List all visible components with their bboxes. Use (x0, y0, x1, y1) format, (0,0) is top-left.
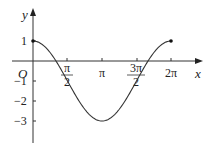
x-tick-label-2pi: 2π (165, 66, 177, 80)
x-tick-label-pi-over-2-num: π (64, 61, 70, 75)
y-tick-label: −3 (14, 114, 27, 128)
x-tick-label-pi: π (99, 66, 105, 80)
y-axis-label: y (20, 7, 28, 22)
cosine-curve (33, 41, 171, 121)
y-tick-label: 1 (21, 34, 27, 48)
x-tick-label-3pi-over-2-num: 3π (130, 61, 142, 75)
x-ticks: π 2 π 3π 2 2π (61, 58, 177, 89)
y-tick-label: −1 (14, 74, 27, 88)
function-graph: y x O 1 −1 −2 −3 π 2 π 3π 2 2π (0, 0, 213, 153)
x-axis-label: x (194, 66, 201, 81)
x-axis-arrow-icon (195, 58, 203, 64)
end-point (169, 39, 173, 43)
y-axis-arrow-icon (30, 8, 36, 16)
start-point (31, 39, 35, 43)
y-tick-label: −2 (14, 94, 27, 108)
